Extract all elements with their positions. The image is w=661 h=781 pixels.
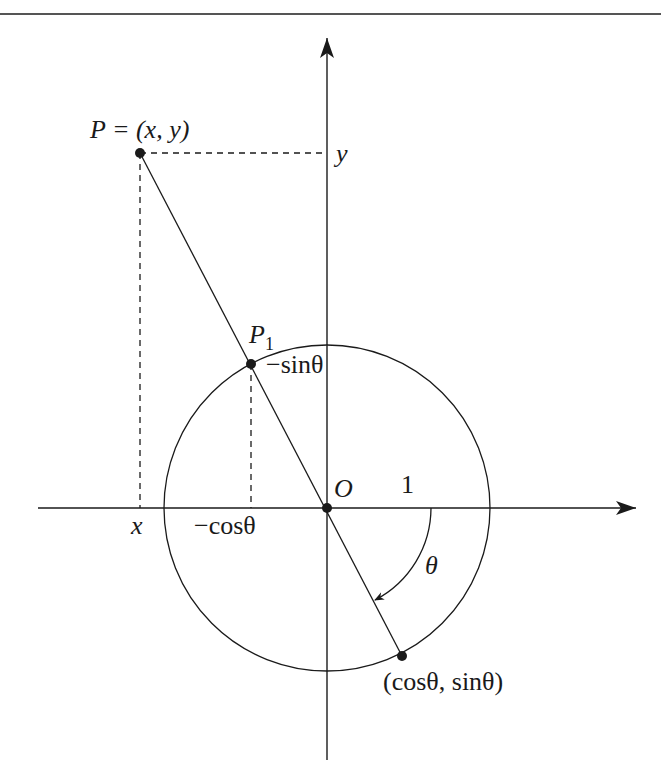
label-one: 1 [401, 470, 414, 499]
point-P [135, 148, 145, 158]
label-P1: P1 [248, 320, 274, 354]
radial-line [140, 153, 402, 656]
label-neg-cos: −cosθ [194, 511, 256, 540]
label-y: y [333, 139, 348, 168]
unit-circle-diagram: P = (x, y) y P1 −sinθ O 1 x −cosθ θ (cos… [0, 0, 661, 781]
point-cos-sin [397, 651, 407, 661]
label-neg-sin: −sinθ [266, 350, 323, 379]
theta-arc [375, 508, 431, 600]
label-theta: θ [425, 551, 438, 580]
label-P: P = (x, y) [89, 115, 189, 144]
point-P1 [246, 359, 256, 369]
label-x: x [130, 511, 143, 540]
label-origin: O [334, 474, 353, 503]
point-origin [322, 503, 332, 513]
label-cos-sin-point: (cosθ, sinθ) [383, 667, 503, 696]
